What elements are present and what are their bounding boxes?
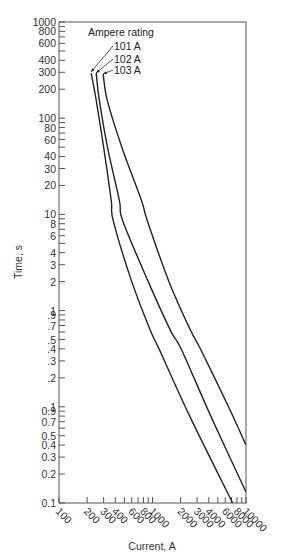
y-tick-label: 4: [50, 247, 56, 259]
y-tick-label: 40: [44, 150, 56, 162]
y-tick-label: 80: [44, 122, 56, 134]
time-current-chart: 1000800600400300200100806040302010864321…: [0, 0, 293, 560]
annotation-label-103a: 103 A: [114, 64, 141, 76]
x-tick-label: 100: [54, 505, 75, 526]
annotation-label-101a: 101 A: [114, 40, 141, 52]
y-tick-label: .3: [47, 355, 56, 367]
y-tick-label: 0.4: [41, 439, 56, 451]
x-tick-label: 200: [82, 505, 103, 526]
y-tick-label: 2: [50, 276, 56, 288]
y-tick-label: 800: [38, 25, 56, 37]
x-axis-title: Current, A: [128, 540, 175, 552]
curves: [91, 73, 246, 503]
legend-annotations: Ampere rating 101 A 102 A 103 A: [88, 26, 154, 76]
y-tick-label: 200: [38, 83, 56, 95]
y-tick-label: .2: [47, 372, 56, 384]
annotation-title: Ampere rating: [88, 26, 154, 38]
y-tick-label: 0.3: [41, 451, 56, 463]
arrowhead-icon: [103, 71, 107, 74]
y-tick-label: 300: [38, 66, 56, 78]
y-tick-label: .7: [47, 320, 56, 332]
y-tick-label: 30: [44, 163, 56, 175]
y-tick-label: 3: [50, 259, 56, 271]
y-tick-label: 0.7: [41, 416, 56, 428]
y-axis-title: Time, s: [12, 245, 24, 279]
y-tick-label: 0.2: [41, 468, 56, 480]
y-axis-ticks: 1000800600400300200100806040302010864321…: [33, 16, 65, 509]
y-tick-label: 8: [50, 218, 56, 230]
y-tick-label: .4: [47, 343, 56, 355]
y-tick-label: 600: [38, 37, 56, 49]
y-tick-label: 0.1: [41, 497, 56, 509]
y-tick-label: 20: [44, 179, 56, 191]
y-tick-label: 400: [38, 54, 56, 66]
y-tick-label: 60: [44, 134, 56, 146]
y-tick-label: 6: [50, 230, 56, 242]
curve-101a: [91, 73, 232, 503]
